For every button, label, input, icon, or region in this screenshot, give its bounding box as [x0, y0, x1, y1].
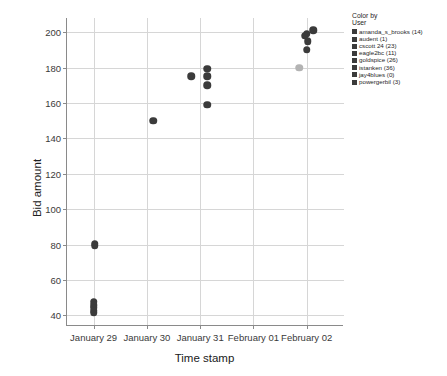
gridline-vertical [200, 18, 201, 326]
legend-subtitle: User [352, 19, 447, 26]
x-tick-label: February 02 [281, 332, 332, 343]
y-tick-label: 40 [50, 310, 61, 321]
legend-color-swatch [352, 58, 357, 63]
x-tick-mark [253, 325, 254, 329]
gridline-horizontal [67, 138, 344, 139]
data-point[interactable] [150, 117, 158, 125]
legend-item-label: powergerbil (3) [359, 79, 400, 86]
y-tick-mark [63, 245, 67, 246]
x-tick-mark [147, 325, 148, 329]
y-tick-mark [63, 209, 67, 210]
data-point[interactable] [303, 46, 311, 54]
y-tick-label: 180 [45, 62, 61, 73]
gridline-horizontal [67, 280, 344, 281]
data-point[interactable] [203, 101, 211, 109]
y-tick-mark [63, 138, 67, 139]
y-tick-label: 80 [50, 239, 61, 250]
x-tick-label: February 01 [228, 332, 279, 343]
legend-color-swatch [352, 65, 357, 70]
legend-color-swatch [352, 72, 357, 77]
gridline-vertical [94, 18, 95, 326]
y-tick-label: 120 [45, 168, 61, 179]
x-tick-label: January 29 [70, 332, 117, 343]
gridline-vertical [307, 18, 308, 326]
y-axis-title: Bid amount [31, 159, 43, 217]
gridline-horizontal [67, 174, 344, 175]
y-tick-label: 100 [45, 204, 61, 215]
gridline-horizontal [67, 245, 344, 246]
y-tick-mark [63, 315, 67, 316]
legend-color-swatch [352, 44, 357, 49]
legend-item[interactable]: powergerbil (3) [352, 79, 447, 86]
data-point[interactable] [203, 65, 211, 73]
y-tick-mark [63, 68, 67, 69]
gridline-vertical [253, 18, 254, 326]
data-point[interactable] [90, 309, 98, 317]
y-tick-label: 160 [45, 97, 61, 108]
y-tick-mark [63, 103, 67, 104]
gridline-horizontal [67, 315, 344, 316]
scatter-plot-figure: Bid amount 406080100120140160180200Janua… [0, 0, 447, 376]
gridline-horizontal [67, 209, 344, 210]
legend-title: Color by [352, 12, 447, 19]
data-point[interactable] [203, 73, 211, 81]
data-point[interactable] [304, 37, 312, 45]
legend-color-swatch [352, 51, 357, 56]
legend: Color by User amanda_s_brooks (14)audent… [352, 12, 447, 86]
data-point[interactable] [296, 64, 304, 72]
x-axis-title: Time stamp [66, 352, 343, 364]
legend-item-list: amanda_s_brooks (14)audent (1)cscott 24 … [352, 28, 447, 86]
gridline-vertical [147, 18, 148, 326]
y-tick-mark [63, 174, 67, 175]
y-tick-label: 200 [45, 27, 61, 38]
data-point[interactable] [187, 73, 195, 81]
x-tick-mark [94, 325, 95, 329]
legend-item-label: goldspice (26) [359, 57, 398, 64]
x-tick-label: January 30 [123, 332, 170, 343]
data-point[interactable] [91, 242, 99, 250]
legend-color-swatch [352, 29, 357, 34]
y-tick-label: 140 [45, 133, 61, 144]
legend-color-swatch [352, 37, 357, 42]
y-tick-label: 60 [50, 274, 61, 285]
x-tick-mark [200, 325, 201, 329]
legend-color-swatch [352, 80, 357, 85]
data-point[interactable] [203, 82, 211, 90]
plot-area: 406080100120140160180200January 29Januar… [66, 18, 343, 326]
y-tick-mark [63, 32, 67, 33]
y-tick-mark [63, 280, 67, 281]
data-point[interactable] [309, 27, 317, 35]
x-tick-mark [307, 325, 308, 329]
x-tick-label: January 31 [177, 332, 224, 343]
